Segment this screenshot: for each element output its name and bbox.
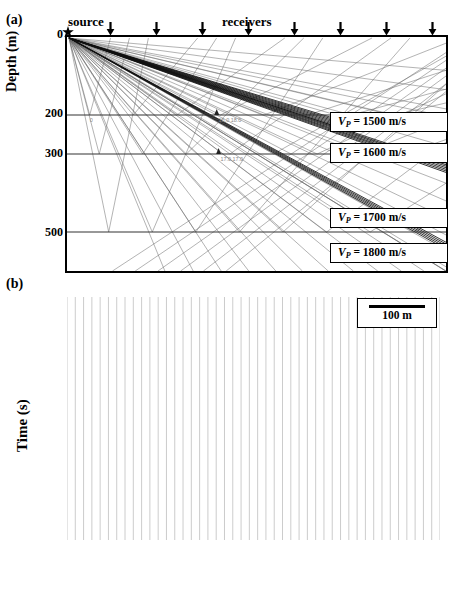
velocity-label-layer-3: VP = 1700 m/s [330,208,448,228]
velocity-value: = 1600 m/s [351,146,406,158]
svg-text:17.0 17.0: 17.0 17.0 [220,156,243,162]
receiver-arrow-4 [244,22,253,36]
depth-tick-labels: 0200300500 [25,35,63,273]
svg-text:0: 0 [90,117,93,123]
receiver-arrow-7 [382,22,391,36]
depth-axis-label: Depth (m) [4,31,20,92]
velocity-value: = 1800 m/s [351,246,406,258]
velocity-label-layer-4: VP = 1800 m/s [330,243,448,263]
receiver-arrow-5 [290,22,299,36]
panel-b-tag: (b) [6,276,23,292]
velocity-label-layer-2: VP = 1600 m/s [330,143,448,163]
scale-bar-label: 100 m [382,309,412,321]
receiver-arrow-3 [198,22,207,36]
svg-text:16.0 18.0: 16.0 18.0 [219,117,242,123]
depth-tick-200: 200 [29,106,63,121]
velocity-symbol: V [338,246,346,258]
velocity-symbol: V [338,146,346,158]
velocity-value: = 1500 m/s [351,115,406,127]
receiver-arrow-1 [106,22,115,36]
panel-b-wiggle-gather [67,297,440,540]
receiver-arrow-6 [336,22,345,36]
velocity-value: = 1700 m/s [351,211,406,223]
depth-tick-300: 300 [29,146,63,161]
depth-tick-0: 0 [29,27,63,42]
time-tick-labels [22,290,64,550]
receiver-arrow-8 [428,22,437,36]
trace-tick-labels [0,556,461,576]
horizontal-rule-icon [369,305,425,308]
velocity-label-layer-1: VP = 1500 m/s [330,112,448,132]
velocity-symbol: V [338,211,346,223]
receiver-arrow-row [65,22,448,36]
receiver-arrow-2 [152,22,161,36]
panel-a-tag: (a) [6,12,22,28]
seismic-wiggle-traces [67,297,440,540]
scale-bar-legend: 100 m [357,298,437,328]
depth-tick-500: 500 [29,225,63,240]
velocity-symbol: V [338,115,346,127]
